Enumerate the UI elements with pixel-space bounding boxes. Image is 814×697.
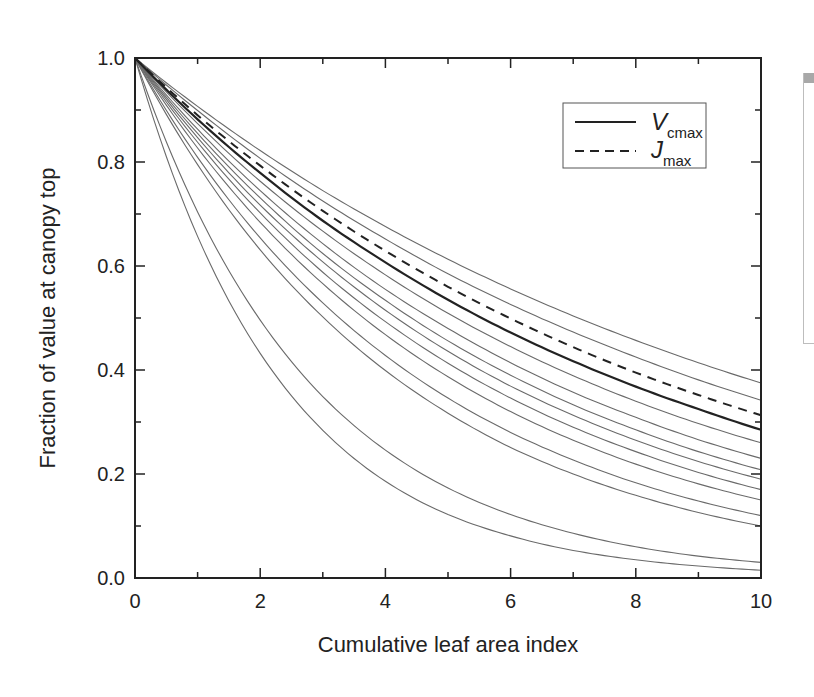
y-axis-title: Fraction of value at canopy top (35, 168, 60, 469)
x-tick-label: 10 (750, 590, 772, 612)
x-tick-label: 0 (129, 590, 140, 612)
x-tick-labels: 0246810 (129, 590, 772, 612)
y-tick-label: 0.2 (97, 463, 125, 485)
y-tick-label: 0.0 (97, 567, 125, 589)
y-tick-labels: 0.00.20.40.60.81.0 (97, 47, 125, 589)
legend: Vcmax Jmax (563, 103, 706, 169)
x-axis-title: Cumulative leaf area index (318, 632, 578, 657)
x-tick-label: 4 (380, 590, 391, 612)
x-tick-label: 8 (630, 590, 641, 612)
y-tick-label: 0.6 (97, 255, 125, 277)
side-panel-edge (803, 73, 814, 344)
x-tick-label: 2 (255, 590, 266, 612)
side-panel-header (804, 73, 814, 83)
y-tick-label: 0.4 (97, 359, 125, 381)
x-tick-label: 6 (505, 590, 516, 612)
y-tick-label: 1.0 (97, 47, 125, 69)
y-tick-label: 0.8 (97, 151, 125, 173)
